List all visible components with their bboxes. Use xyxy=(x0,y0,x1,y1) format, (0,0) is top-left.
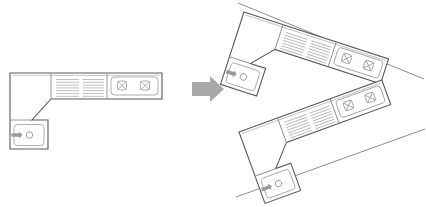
rotated-counterclockwise-layout-panel xyxy=(236,80,425,203)
kitchen-unit-original xyxy=(10,73,162,149)
kitchen-rotation-diagram xyxy=(0,0,426,207)
original-layout-panel xyxy=(10,73,162,149)
kitchen-unit-geometry xyxy=(239,80,408,203)
diagram-canvas xyxy=(0,0,426,207)
transform-arrow xyxy=(192,76,224,102)
kitchen-unit-rotated-ccw xyxy=(239,80,408,203)
kitchen-unit-geometry xyxy=(10,73,162,149)
